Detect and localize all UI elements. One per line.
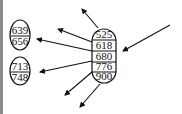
arrow-up-left [58,29,92,42]
arrow-to-upper-node [37,39,92,51]
b-tree-diagram: 525 618 680 776 900 639 656 713 748 [0,0,182,114]
arrow-to-lower-node [40,61,92,72]
key-900: 900 [96,70,113,82]
key-656: 656 [12,35,29,47]
arrow-incoming [123,25,170,51]
arrow-down-left [65,72,92,95]
key-748: 748 [12,71,29,83]
arrow-down [80,84,100,107]
left-node-lower: 713 748 [10,57,30,85]
arrow-up [82,9,98,28]
center-node: 525 618 680 776 900 [92,28,116,83]
left-node-upper: 639 656 [10,20,30,50]
